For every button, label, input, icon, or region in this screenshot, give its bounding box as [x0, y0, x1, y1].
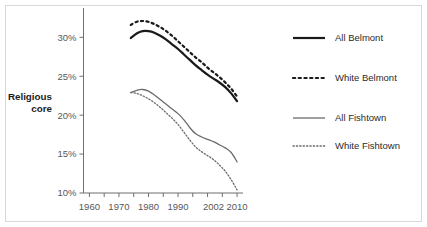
- chart-legend: All BelmontWhite BelmontAll FishtownWhit…: [293, 32, 400, 151]
- y-axis-title-line1: Religious: [8, 91, 53, 102]
- legend-label: White Fishtown: [335, 140, 400, 151]
- x-tick-label: 2010: [227, 201, 248, 212]
- legend-label: All Fishtown: [335, 112, 386, 123]
- x-tick-label: 1980: [138, 201, 159, 212]
- series-line: [131, 21, 237, 97]
- series-line: [131, 89, 237, 161]
- legend-label: All Belmont: [335, 32, 383, 43]
- y-axis: 10%15%20%25%30%: [57, 8, 83, 198]
- y-tick-label: 10%: [57, 187, 77, 198]
- y-tick-label: 30%: [57, 32, 77, 43]
- y-tick-label: 25%: [57, 71, 77, 82]
- legend-label: White Belmont: [335, 72, 397, 83]
- series-line: [131, 93, 237, 190]
- data-series-group: [131, 21, 237, 190]
- x-tick-label: 2002: [203, 201, 224, 212]
- x-tick-label: 1990: [167, 201, 188, 212]
- y-axis-title: Religiouscore: [8, 91, 53, 114]
- x-tick-label: 1960: [79, 201, 100, 212]
- y-axis-title-line2: core: [31, 103, 52, 114]
- y-tick-label: 20%: [57, 110, 77, 121]
- chart-figure: 10%15%20%25%30% 196019701980199020022010…: [0, 0, 427, 227]
- line-chart-plot: 10%15%20%25%30% 196019701980199020022010…: [0, 0, 427, 227]
- x-axis: 196019701980199020022010: [79, 193, 248, 212]
- x-tick-label: 1970: [108, 201, 129, 212]
- y-tick-label: 15%: [57, 148, 77, 159]
